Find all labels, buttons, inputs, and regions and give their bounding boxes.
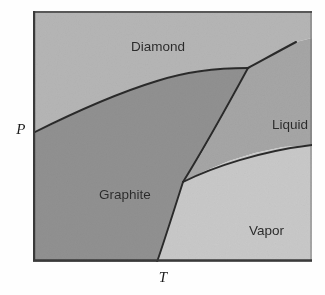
phase-diagram-figure: P T <box>0 0 325 295</box>
x-axis-label: T <box>153 269 173 286</box>
y-axis-label: P <box>11 121 31 138</box>
region-label-diamond: Diamond <box>131 39 185 54</box>
region-label-liquid: Liquid <box>272 117 308 132</box>
region-label-vapor: Vapor <box>249 223 284 238</box>
plot-area: Diamond Graphite Liquid Vapor <box>33 11 312 262</box>
region-label-graphite: Graphite <box>99 187 151 202</box>
